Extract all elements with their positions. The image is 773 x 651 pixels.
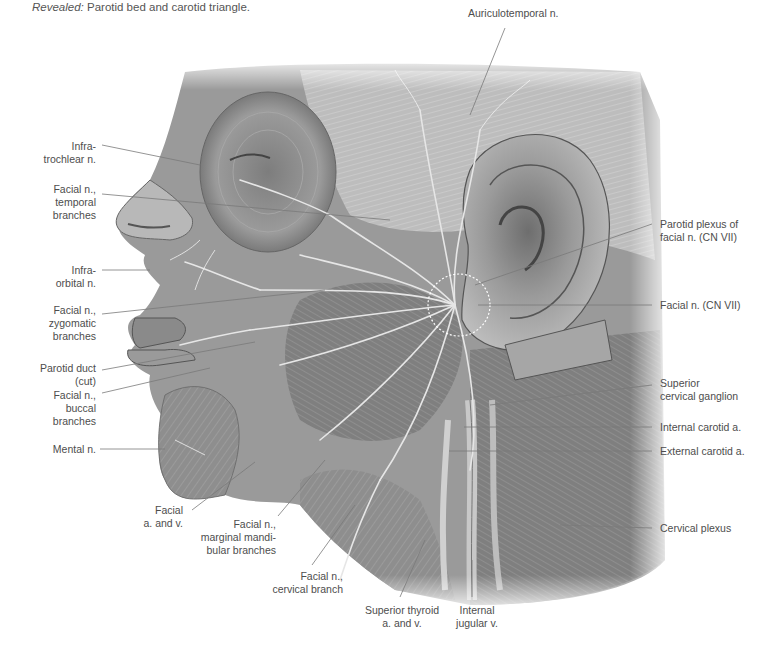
label-parotid-plexus-of-facial-nerve: Parotid plexus of facial n. (CN VII) (660, 218, 738, 244)
label-facial-nerve-cervical-branch: Facial n., cervical branch (272, 570, 343, 596)
label-mental-nerve: Mental n. (53, 443, 96, 456)
label-line: Facial n., (272, 570, 343, 583)
anatomy-illustration (0, 0, 773, 651)
label-auriculotemporal-nerve: Auriculotemporal n. (468, 7, 558, 20)
label-line: Superior thyroid (362, 604, 442, 617)
label-external-carotid-artery: External carotid a. (660, 445, 745, 458)
label-facial-nerve-marginal-mandibular-branches: Facial n., marginal mandi- bular branche… (201, 518, 276, 557)
label-line: Internal (452, 604, 502, 617)
label-parotid-duct-cut: Parotid duct (cut) (40, 362, 96, 388)
label-line: trochlear n. (43, 153, 96, 166)
label-line: Infra- (56, 264, 96, 277)
label-line: branches (53, 209, 96, 222)
label-internal-jugular-vein: Internal jugular v. (452, 604, 502, 630)
label-line: branches (53, 415, 96, 428)
label-line: External carotid a. (660, 445, 745, 458)
label-line: marginal mandi- (201, 531, 276, 544)
label-line: Parotid duct (40, 362, 96, 375)
label-facial-nerve-zygomatic-branches: Facial n., zygomatic branches (49, 304, 96, 343)
label-cervical-plexus: Cervical plexus (660, 522, 731, 535)
label-line: Facial (144, 504, 184, 517)
label-infraorbital-nerve: Infra- orbital n. (56, 264, 96, 290)
label-line: Infra- (43, 140, 96, 153)
label-line: Facial n., (49, 304, 96, 317)
label-line: Internal carotid a. (660, 421, 741, 434)
label-text: Auriculotemporal n. (468, 7, 558, 19)
label-line: branches (49, 330, 96, 343)
label-internal-carotid-artery: Internal carotid a. (660, 421, 741, 434)
label-facial-artery-and-vein: Facial a. and v. (144, 504, 184, 530)
label-line: zygomatic (49, 317, 96, 330)
label-superior-cervical-ganglion: Superior cervical ganglion (660, 377, 738, 403)
label-line: (cut) (40, 375, 96, 388)
label-line: buccal (53, 402, 96, 415)
label-line: Cervical plexus (660, 522, 731, 535)
label-line: Facial n., (201, 518, 276, 531)
label-facial-nerve-temporal-branches: Facial n., temporal branches (53, 183, 96, 222)
label-line: a. and v. (362, 617, 442, 630)
label-line: bular branches (201, 544, 276, 557)
label-line: a. and v. (144, 517, 184, 530)
label-line: jugular v. (452, 617, 502, 630)
label-line: cervical ganglion (660, 390, 738, 403)
label-line: Superior (660, 377, 738, 390)
label-infratrochlear-nerve: Infra- trochlear n. (43, 140, 96, 166)
label-line: Facial n. (CN VII) (660, 299, 741, 312)
orbicularis-oculi (200, 92, 336, 252)
label-line: cervical branch (272, 583, 343, 596)
label-line: facial n. (CN VII) (660, 231, 738, 244)
label-line: Parotid plexus of (660, 218, 738, 231)
label-line: temporal (53, 196, 96, 209)
label-superior-thyroid-artery-and-vein: Superior thyroid a. and v. (362, 604, 442, 630)
label-line: orbital n. (56, 277, 96, 290)
label-line: Facial n., (53, 183, 96, 196)
label-line: Facial n., (53, 389, 96, 402)
label-line: Mental n. (53, 443, 96, 456)
label-facial-nerve-buccal-branches: Facial n., buccal branches (53, 389, 96, 428)
label-facial-nerve-cn-vii: Facial n. (CN VII) (660, 299, 741, 312)
